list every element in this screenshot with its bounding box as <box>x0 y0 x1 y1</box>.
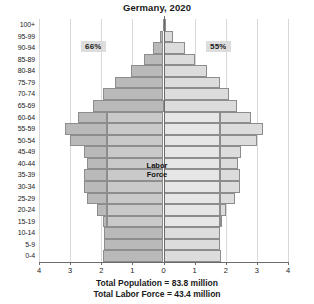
x-axis-tick <box>288 262 289 265</box>
bar-male-labor-force <box>107 216 163 228</box>
bar-male-labor-force <box>107 204 163 216</box>
bar-female-outer <box>220 135 257 147</box>
bar-male-outer <box>84 146 107 158</box>
plot-area <box>39 19 288 262</box>
bar-male-outer <box>84 181 107 193</box>
bar-male <box>144 54 163 66</box>
y-axis-label: 50-54 <box>18 135 35 147</box>
bar-male-outer <box>78 112 108 124</box>
bar-male <box>153 42 164 54</box>
y-axis-label: 45-49 <box>18 146 35 158</box>
bar-male-outer <box>97 204 108 216</box>
x-axis-tick <box>257 262 258 265</box>
bar-male <box>131 65 164 77</box>
x-axis-tick <box>70 262 71 265</box>
x-axis-tick-label: 2 <box>224 266 228 275</box>
y-axis-label: 75-79 <box>18 77 35 89</box>
bar-female <box>164 77 220 89</box>
chart-title: Germany, 2020 <box>0 2 314 13</box>
bar-female-outer <box>220 146 242 158</box>
bar-female-outer <box>220 181 240 193</box>
gridline <box>288 19 289 262</box>
y-axis-label: 15-19 <box>18 216 35 228</box>
y-axis-label: 0-4 <box>25 250 35 262</box>
y-axis-label: 25-29 <box>18 193 35 205</box>
bar-female-outer <box>220 193 236 205</box>
y-axis-label: 90-94 <box>18 42 35 54</box>
footnote-total-labor-force: Total Labor Force = 43.4 million <box>0 289 314 299</box>
bar-female <box>164 239 220 251</box>
x-axis-tick <box>195 262 196 265</box>
bar-male-labor-force <box>107 181 163 193</box>
y-axis-label: 60-64 <box>18 112 35 124</box>
x-axis-tick-label: 4 <box>286 266 290 275</box>
y-axis-label: 70-74 <box>18 88 35 100</box>
x-axis-tick <box>101 262 102 265</box>
labor-force-label-line1: Labor <box>0 161 314 170</box>
bar-male <box>103 88 164 100</box>
bar-female-labor-force <box>164 146 220 158</box>
y-axis-label: 30-34 <box>18 181 35 193</box>
bar-male-labor-force <box>107 135 163 147</box>
y-axis-label: 5-9 <box>25 239 35 251</box>
bar-female <box>164 65 208 77</box>
x-axis-tick <box>39 262 40 265</box>
bar-female <box>164 54 195 66</box>
x-axis-tick-label: 0 <box>161 266 165 275</box>
bar-male <box>103 250 164 262</box>
bar-female <box>164 100 237 112</box>
bar-female <box>164 31 173 43</box>
population-pyramid-chart: Germany, 2020 66% 55% 100+95-9990-9485-8… <box>0 0 314 304</box>
bar-female <box>164 227 220 239</box>
bar-female-outer <box>220 204 226 216</box>
bar-male-labor-force <box>107 193 163 205</box>
bar-female-outer <box>220 123 264 135</box>
x-axis-tick <box>132 262 133 265</box>
x-axis-tick-label: 1 <box>193 266 197 275</box>
bar-female <box>164 42 186 54</box>
bar-female-outer <box>220 112 251 124</box>
bar-male <box>104 227 163 239</box>
x-axis-tick-label: 3 <box>255 266 259 275</box>
bar-male <box>93 100 163 112</box>
y-axis-label: 85-89 <box>18 54 35 66</box>
y-axis-label: 100+ <box>20 19 35 31</box>
x-axis-tick <box>164 262 165 265</box>
bar-male-labor-force <box>107 123 163 135</box>
labor-force-label-line2: Force <box>0 170 314 179</box>
bar-female-labor-force <box>164 193 220 205</box>
center-axis-line <box>164 16 165 262</box>
bar-female-labor-force <box>164 216 220 228</box>
x-axis-tick <box>226 262 227 265</box>
y-axis-label: 80-84 <box>18 65 35 77</box>
y-axis-label: 65-69 <box>18 100 35 112</box>
bar-male-outer <box>87 193 107 205</box>
bar-female-labor-force <box>164 123 220 135</box>
x-axis-tick-label: 1 <box>130 266 134 275</box>
footnote-total-population: Total Population = 83.8 million <box>0 278 314 288</box>
bar-male-labor-force <box>107 146 163 158</box>
bar-male-outer <box>70 135 107 147</box>
bar-male-outer <box>65 123 107 135</box>
bar-female-labor-force <box>164 181 220 193</box>
y-axis-label: 10-14 <box>18 227 35 239</box>
bar-male <box>104 239 163 251</box>
y-axis-label: 95-99 <box>18 31 35 43</box>
bar-male-labor-force <box>107 112 163 124</box>
bar-female <box>164 250 222 262</box>
x-axis-tick-label: 3 <box>68 266 72 275</box>
x-axis: 432101234 <box>39 262 288 276</box>
bar-female-labor-force <box>164 135 220 147</box>
x-axis-tick-label: 4 <box>37 266 41 275</box>
bar-female-outer <box>220 216 222 228</box>
y-axis-age-labels: 100+95-9990-9485-8980-8475-7970-7465-696… <box>0 19 36 262</box>
x-axis-tick-label: 2 <box>99 266 103 275</box>
bar-female-labor-force <box>164 204 220 216</box>
bar-female <box>164 88 229 100</box>
y-axis-label: 55-59 <box>18 123 35 135</box>
bar-male <box>115 77 163 89</box>
y-axis-label: 20-24 <box>18 204 35 216</box>
bar-female-labor-force <box>164 112 220 124</box>
